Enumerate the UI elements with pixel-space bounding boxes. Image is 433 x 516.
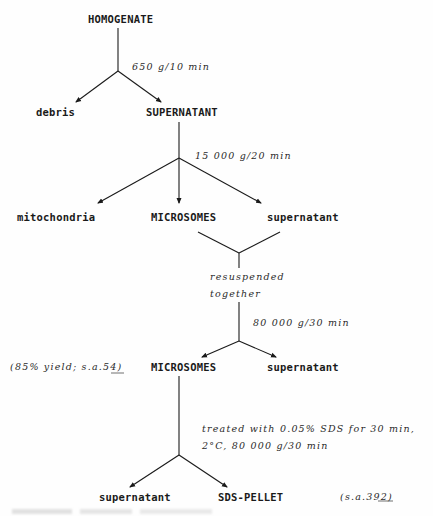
- condition-step-1: 650 g/10 min: [132, 61, 210, 72]
- node-debris: debris: [36, 106, 75, 118]
- node-supernatant-3: supernatant: [267, 361, 339, 373]
- condition-resuspended: resuspended: [210, 271, 285, 282]
- arrow-to-mitochondria: [98, 158, 179, 203]
- pellet-sa-prefix: (s.a.: [340, 491, 366, 502]
- node-microsomes-1: MICROSOMES: [151, 211, 216, 223]
- pellet-sa-suffix: ): [388, 491, 393, 502]
- node-mitochondria: mitochondria: [17, 211, 95, 223]
- node-supernatant-1: SUPERNATANT: [146, 106, 218, 118]
- cropped-caption-fragment: [12, 509, 212, 514]
- yield-sa-value: 54: [103, 361, 118, 372]
- condition-step-4-line-1: treated with 0.05% SDS for 30 min,: [202, 423, 415, 434]
- arrow-to-supernatant-4: [130, 455, 179, 487]
- arrow-to-supernatant-2: [179, 158, 261, 203]
- arrow-to-debris: [76, 71, 118, 102]
- arrow-to-supernatant: [118, 71, 161, 102]
- arrow-to-microsomes-2: [202, 341, 239, 357]
- arrow-to-sds-pellet: [179, 455, 227, 487]
- condition-step-4-line-2: 2°C, 80 000 g/30 min: [202, 440, 329, 451]
- arrow-to-supernatant-3: [239, 341, 276, 357]
- merge-left: [198, 232, 239, 253]
- node-supernatant-2: supernatant: [267, 211, 339, 223]
- yield-suffix: ): [118, 361, 123, 372]
- node-sds-pellet: SDS-PELLET: [218, 491, 283, 503]
- merge-right: [239, 232, 280, 253]
- node-homogenate: HOMOGENATE: [88, 13, 153, 25]
- annotation-pellet-sa: (s.a.392): [340, 491, 393, 502]
- node-microsomes-2: MICROSOMES: [151, 361, 216, 373]
- pellet-sa-value: 392: [366, 491, 388, 502]
- condition-step-2: 15 000 g/20 min: [195, 150, 292, 161]
- annotation-microsomes-yield: (85% yield; s.a.54): [10, 361, 122, 372]
- condition-step-3: 80 000 g/30 min: [253, 317, 350, 328]
- flowchart-connectors: [0, 0, 433, 516]
- node-supernatant-4: supernatant: [99, 491, 171, 503]
- condition-together: together: [210, 288, 261, 299]
- flowchart-canvas: HOMOGENATE debris SUPERNATANT mitochondr…: [0, 0, 433, 516]
- yield-prefix: (85% yield; s.a.: [10, 361, 103, 372]
